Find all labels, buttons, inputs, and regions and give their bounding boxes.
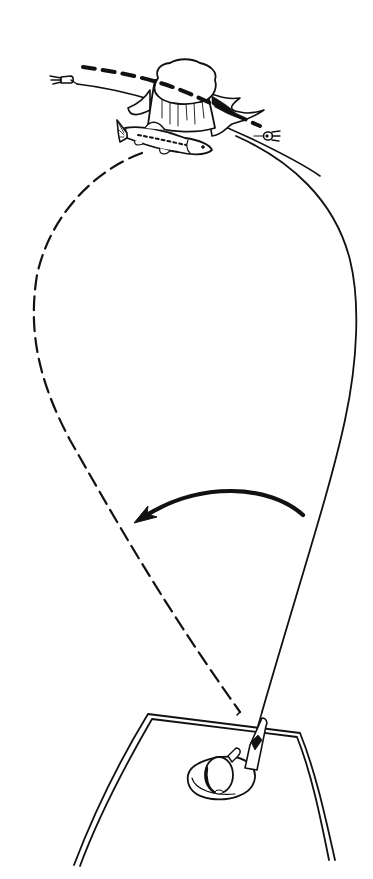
line-break-mark: [325, 462, 326, 466]
angler: [188, 718, 267, 799]
lure-right: [254, 131, 280, 141]
casting-diagram: [0, 0, 373, 879]
cast-loop-solid: [236, 136, 356, 712]
cast-loop-dashed: [34, 153, 240, 712]
lure-left: [50, 76, 77, 84]
sweep-arrow-icon: [134, 491, 303, 523]
